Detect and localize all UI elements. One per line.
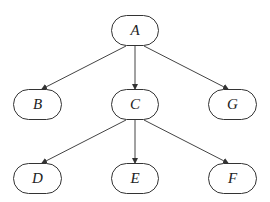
node-g: G: [208, 89, 257, 120]
node-b: B: [13, 89, 62, 120]
edge-c-d: [42, 120, 126, 163]
edge-c-f: [144, 120, 228, 163]
node-d: D: [13, 163, 62, 194]
edge-a-g: [144, 46, 228, 89]
node-e: E: [111, 163, 159, 194]
node-c: C: [111, 89, 159, 120]
edge-a-b: [42, 46, 126, 89]
node-a: A: [111, 15, 159, 46]
node-f: F: [208, 163, 257, 194]
